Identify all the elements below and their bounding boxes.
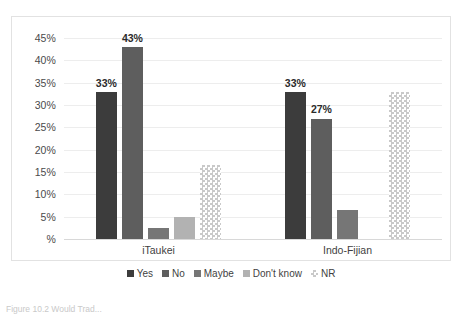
- y-axis-tick-label: 25%: [35, 121, 56, 133]
- legend-item-nr[interactable]: NR: [311, 268, 335, 279]
- figure-caption: Figure 10.2 Would Trad...: [6, 304, 456, 314]
- legend-swatch-nr-icon: [311, 270, 318, 277]
- bar-itaukei-nr: [200, 165, 220, 239]
- legend-item-yes[interactable]: Yes: [127, 268, 153, 279]
- category-label-itaukei: iTaukei: [142, 244, 175, 256]
- legend-item-no[interactable]: No: [162, 268, 185, 279]
- y-axis-tick-label: 45%: [35, 32, 56, 44]
- legend-swatch-maybe-icon: [194, 270, 201, 277]
- bar-itaukei-maybe: [148, 228, 168, 239]
- bar-indo-fijian-nr: [389, 92, 409, 239]
- legend-swatch-no-icon: [162, 270, 169, 277]
- y-axis-tick-label: 40%: [35, 54, 56, 66]
- y-axis-tick-label: 35%: [35, 77, 56, 89]
- y-axis-tick-label: 20%: [35, 144, 56, 156]
- bars-layer: 33%43%33%27%: [64, 27, 442, 239]
- category-label-indo-fijian: Indo-Fijian: [323, 244, 372, 256]
- bar-indo-fijian-yes: [285, 92, 305, 239]
- bar-itaukei-don-t-know: [174, 217, 194, 239]
- legend-label: Maybe: [204, 268, 234, 279]
- y-axis-tick-label: %: [47, 233, 56, 245]
- bar-value-label: 43%: [122, 32, 143, 44]
- bar-indo-fijian-no: [311, 119, 331, 240]
- y-axis: 45%40%35%30%25%20%15%10%5%%: [12, 27, 60, 239]
- bar-value-label: 33%: [285, 77, 306, 89]
- legend-item-maybe[interactable]: Maybe: [194, 268, 234, 279]
- bar-indo-fijian-maybe: [337, 210, 357, 239]
- y-axis-tick-label: 5%: [41, 211, 56, 223]
- y-axis-tick-label: 30%: [35, 99, 56, 111]
- legend-swatch-dontknow-icon: [243, 270, 250, 277]
- gridline-0: [64, 239, 442, 240]
- legend-label: NR: [321, 268, 335, 279]
- legend-swatch-yes-icon: [127, 270, 134, 277]
- y-axis-tick-label: 10%: [35, 188, 56, 200]
- chart-legend: YesNoMaybeDon't knowNR: [0, 268, 462, 279]
- legend-item-don-t-know[interactable]: Don't know: [243, 268, 302, 279]
- y-axis-tick-label: 15%: [35, 166, 56, 178]
- legend-label: Yes: [137, 268, 153, 279]
- bar-itaukei-yes: [96, 92, 116, 239]
- legend-label: Don't know: [253, 268, 302, 279]
- figure-container: 45%40%35%30%25%20%15%10%5%% 33%43%33%27%…: [0, 0, 462, 319]
- bar-itaukei-no: [122, 47, 142, 239]
- bar-value-label: 27%: [311, 103, 332, 115]
- legend-label: No: [172, 268, 185, 279]
- chart-plot-frame: 45%40%35%30%25%20%15%10%5%% 33%43%33%27%…: [11, 16, 451, 261]
- plot-area: 33%43%33%27%: [64, 27, 442, 239]
- bar-value-label: 33%: [96, 77, 117, 89]
